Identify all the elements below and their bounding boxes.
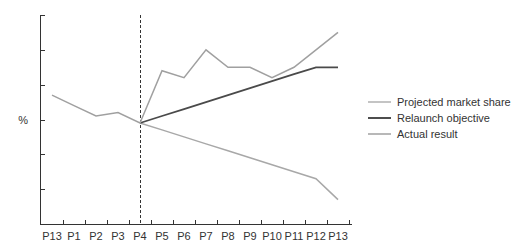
legend-label: Actual result bbox=[397, 128, 458, 140]
series-line-actual-result bbox=[52, 32, 338, 123]
x-tick-label: P13 bbox=[42, 230, 62, 242]
series-line-projected-market-share bbox=[140, 123, 338, 200]
x-tick-label: P7 bbox=[199, 230, 212, 242]
x-tick-label: P6 bbox=[177, 230, 190, 242]
axes: P13P1P2P3P4P5P6P7P8P9P10P11P12P13 % bbox=[18, 15, 352, 242]
x-tick-label: P9 bbox=[243, 230, 256, 242]
x-tick-label: P11 bbox=[285, 230, 304, 242]
x-tick-label: P2 bbox=[89, 230, 102, 242]
legend-label: Relaunch objective bbox=[397, 112, 490, 124]
x-tick-label: P13 bbox=[328, 230, 348, 242]
x-ticks: P13P1P2P3P4P5P6P7P8P9P10P11P12P13 bbox=[42, 220, 349, 242]
legend-item-relaunch: Relaunch objective bbox=[368, 112, 490, 124]
x-tick-label: P1 bbox=[67, 230, 80, 242]
x-tick-label: P10 bbox=[262, 230, 282, 242]
x-tick-label: P8 bbox=[221, 230, 234, 242]
x-tick-label: P12 bbox=[306, 230, 326, 242]
legend: Projected market share Relaunch objectiv… bbox=[368, 96, 511, 140]
legend-label: Projected market share bbox=[397, 96, 511, 108]
legend-item-projected: Projected market share bbox=[368, 96, 511, 108]
x-tick-label: P5 bbox=[155, 230, 168, 242]
series-line-relaunch-objective bbox=[140, 67, 338, 123]
line-chart: P13P1P2P3P4P5P6P7P8P9P10P11P12P13 % Proj… bbox=[0, 0, 523, 249]
x-tick-label: P4 bbox=[133, 230, 146, 242]
legend-item-actual: Actual result bbox=[368, 128, 458, 140]
series-lines bbox=[52, 32, 338, 199]
x-tick-label: P3 bbox=[111, 230, 124, 242]
y-axis-label: % bbox=[18, 114, 28, 126]
